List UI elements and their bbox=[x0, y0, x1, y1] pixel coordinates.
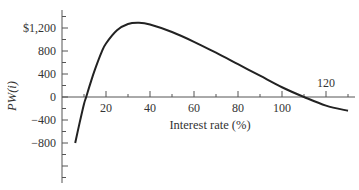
x-tick-label: 80 bbox=[232, 101, 244, 115]
pw-chart: −800−4000400800$1,200 20406080100120 Int… bbox=[0, 0, 359, 190]
x-tick-label: 120 bbox=[317, 76, 335, 90]
x-ticks: 20406080100120 bbox=[84, 76, 348, 115]
x-tick-label: 20 bbox=[100, 101, 112, 115]
y-tick-label: 400 bbox=[38, 67, 56, 81]
x-axis-title: Interest rate (%) bbox=[169, 118, 250, 132]
y-ticks: −800−4000400800$1,200 bbox=[23, 17, 68, 178]
x-tick-label: 100 bbox=[273, 101, 291, 115]
x-tick-label: 40 bbox=[144, 101, 156, 115]
y-tick-label: −800 bbox=[31, 136, 56, 150]
y-tick-label: $1,200 bbox=[23, 21, 56, 35]
x-tick-label: 60 bbox=[188, 101, 200, 115]
y-tick-label: 800 bbox=[38, 44, 56, 58]
y-tick-label: −400 bbox=[31, 113, 56, 127]
y-tick-label: 0 bbox=[50, 90, 56, 104]
y-axis-title: PW(i) bbox=[5, 81, 19, 112]
